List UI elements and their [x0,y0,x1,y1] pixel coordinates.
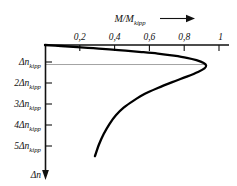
chart-canvas: 0,2 0,4 0,6 0,8 1 M/Mkipp Δnkipp 2Δnkipp… [0,0,237,186]
y-axis-label: Δn [30,170,42,180]
torque-slip-curve [45,45,206,156]
x-axis-title-arrowhead [186,15,195,22]
x-axis-title: M/Mkipp [113,13,195,26]
y-tick-label-4: 5Δnkipp [14,141,41,153]
x-tick-label-4: 1 [218,32,223,42]
x-tick-label-0: 0,2 [74,32,86,42]
x-axis-title-main: M/M [113,13,134,24]
y-tick-label-2: 3Δnkipp [13,99,41,111]
x-tick-label-1: 0,4 [109,32,121,42]
y-axis-arrowhead [42,170,49,180]
y-tick-label-1: 2Δnkipp [14,78,41,90]
svg-text:M/Mkipp: M/Mkipp [113,13,146,26]
y-tick-label-3: 4Δnkipp [14,120,41,132]
torque-slip-chart: 0,2 0,4 0,6 0,8 1 M/Mkipp Δnkipp 2Δnkipp… [0,0,237,186]
y-tick-label-0: Δnkipp [18,57,42,69]
x-tick-label-3: 0,8 [178,32,190,42]
x-axis-title-sub: kipp [134,19,146,26]
x-tick-label-2: 0,6 [143,32,155,42]
